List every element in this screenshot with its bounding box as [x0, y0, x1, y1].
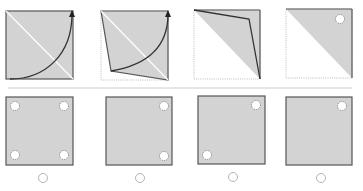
folded-triangle — [194, 10, 260, 79]
step-2-panel — [101, 10, 171, 80]
hole-icon — [160, 152, 169, 161]
step-3-panel — [194, 10, 260, 79]
paper-folding-diagram — [0, 0, 363, 191]
hole-icon — [160, 102, 169, 111]
punched-hole-icon — [336, 15, 345, 24]
step-4-panel — [286, 9, 352, 78]
option-4-radio[interactable] — [316, 173, 326, 183]
option-2-radio[interactable] — [135, 173, 145, 183]
hole-icon — [252, 101, 261, 110]
hole-icon — [11, 151, 20, 160]
step-1-panel — [6, 10, 75, 79]
option-1-radio[interactable] — [38, 173, 48, 183]
option-4-figure — [286, 97, 352, 165]
hole-icon — [60, 151, 69, 160]
hole-icon — [203, 151, 212, 160]
option-3-figure — [198, 96, 265, 164]
option-3-radio[interactable] — [228, 172, 238, 182]
hole-icon — [60, 102, 69, 111]
option-1-figure — [6, 97, 73, 165]
hole-icon — [338, 102, 347, 111]
option-2-figure — [106, 97, 172, 165]
hole-icon — [11, 102, 20, 111]
